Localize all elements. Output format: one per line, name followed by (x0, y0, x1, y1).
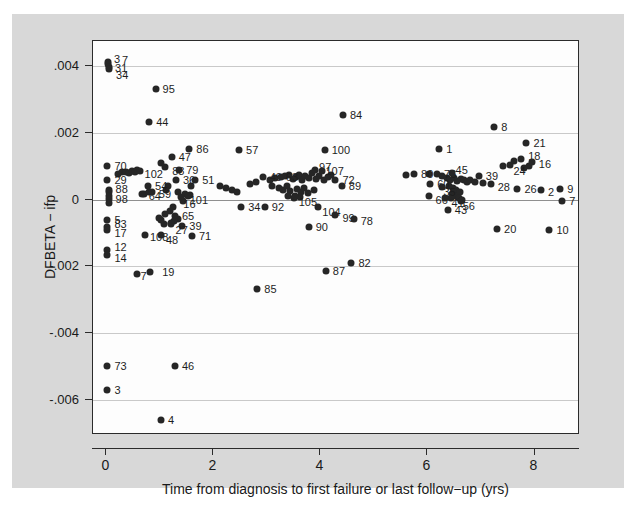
data-point-label: 73 (114, 360, 126, 371)
gridline (93, 333, 578, 334)
y-tick-mark (85, 265, 92, 266)
x-tick-label: 4 (316, 457, 324, 473)
data-point-label: 89 (349, 181, 361, 192)
x-axis-line (92, 448, 579, 449)
data-point (321, 147, 328, 154)
x-tick-label: 8 (530, 457, 538, 473)
data-point (236, 147, 243, 154)
data-point (171, 212, 178, 219)
data-point-label: 45 (456, 164, 468, 175)
data-point-label: 51 (202, 175, 214, 186)
data-point (105, 192, 112, 199)
data-point (487, 180, 494, 187)
data-point-label: 87 (333, 266, 345, 277)
data-point (104, 251, 111, 258)
data-point (528, 159, 535, 166)
data-point (253, 179, 260, 186)
data-point (104, 163, 111, 170)
data-point (138, 191, 145, 198)
y-tick-mark (85, 132, 92, 133)
y-tick-mark (85, 199, 92, 200)
data-point (104, 216, 111, 223)
data-point (332, 177, 339, 184)
data-point (157, 416, 164, 423)
data-point (152, 85, 159, 92)
data-point (434, 170, 441, 177)
data-point (348, 260, 355, 267)
data-point-label: 7 (140, 270, 146, 281)
data-point-label: 90 (316, 221, 328, 232)
y-tick-label: -.006 (49, 391, 79, 406)
data-point (322, 268, 329, 275)
data-point (254, 286, 261, 293)
data-point (104, 362, 111, 369)
x-axis-title: Time from diagnosis to first failure or … (162, 481, 509, 497)
data-point (518, 155, 525, 162)
data-point (546, 226, 553, 233)
data-point-label: 71 (199, 231, 211, 242)
data-point-label: 21 (533, 137, 545, 148)
data-point-label: 44 (156, 117, 168, 128)
data-point (233, 188, 240, 195)
data-point-label: 14 (114, 252, 126, 263)
graph-region: DFBETA − ifp .004.0020-.002-.004-.006 37… (12, 14, 624, 488)
data-point (444, 207, 451, 214)
data-point (168, 153, 175, 160)
data-point (339, 112, 346, 119)
data-point-label: 85 (264, 284, 276, 295)
data-point (148, 189, 155, 196)
data-point-label: 84 (350, 110, 362, 121)
data-point (104, 386, 111, 393)
data-point (441, 195, 448, 202)
y-axis: .004.0020-.002-.004-.006 (12, 14, 92, 488)
data-point (172, 177, 179, 184)
x-tick-label: 0 (101, 457, 109, 473)
data-point-label: 80 (421, 168, 433, 179)
data-point (105, 199, 112, 206)
data-point-label: 100 (332, 145, 350, 156)
data-point (436, 145, 443, 152)
data-point (141, 231, 148, 238)
data-point (176, 167, 183, 174)
y-tick-label: .002 (54, 124, 79, 139)
data-point-label: 3 (114, 384, 120, 395)
data-point-label: 63 (286, 171, 298, 182)
data-point (403, 171, 410, 178)
data-point (523, 139, 530, 146)
data-point-label: 78 (361, 215, 373, 226)
data-point (332, 211, 339, 218)
gridline (93, 400, 578, 401)
data-point-label: 19 (162, 267, 174, 278)
y-tick-label: 0 (72, 191, 79, 206)
x-tick-mark (534, 448, 535, 455)
data-point-label: 26 (524, 183, 536, 194)
y-tick-mark (85, 332, 92, 333)
data-point (350, 215, 357, 222)
data-point-label: 8 (501, 121, 507, 132)
data-point (305, 223, 312, 230)
data-point-label: 48 (166, 234, 178, 245)
data-point (261, 203, 268, 210)
plot-area: 3731349544848218657100147181624708810279… (92, 40, 579, 434)
data-point (155, 215, 162, 222)
data-point-label: 16 (183, 198, 195, 209)
data-point-label: 82 (358, 258, 370, 269)
data-point (189, 233, 196, 240)
data-point (494, 225, 501, 232)
data-point (559, 198, 566, 205)
data-point-label: 70 (114, 161, 126, 172)
y-tick-label: .004 (54, 58, 79, 73)
data-point-label: 1 (446, 143, 452, 154)
data-point (315, 203, 322, 210)
data-point (338, 183, 345, 190)
chart-figure: DFBETA − ifp .004.0020-.002-.004-.006 37… (0, 0, 636, 505)
data-point (557, 185, 564, 192)
y-tick-label: -.004 (49, 325, 79, 340)
data-point (146, 119, 153, 126)
y-tick-mark (85, 399, 92, 400)
data-point-label: 17 (114, 228, 126, 239)
data-point-label: 92 (272, 201, 284, 212)
x-tick-label: 2 (209, 457, 217, 473)
data-point (106, 65, 113, 72)
data-point (238, 203, 245, 210)
